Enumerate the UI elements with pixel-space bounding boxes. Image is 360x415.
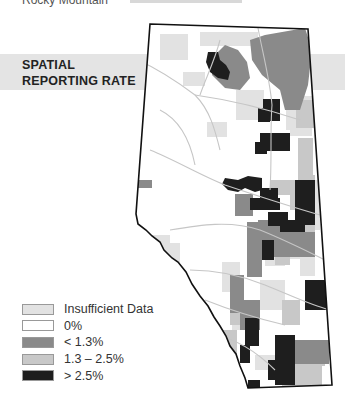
swatch-insufficient (22, 304, 54, 315)
legend-item-insufficient: Insufficient Data (22, 302, 153, 316)
legend-item-mid: 1.3 – 2.5% (22, 352, 153, 366)
swatch-mid (22, 354, 54, 365)
legend-item-zero: 0% (22, 319, 153, 333)
swatch-high (22, 370, 54, 381)
swatch-zero (22, 320, 54, 331)
swatch-low (22, 337, 54, 348)
legend-item-low: < 1.3% (22, 335, 153, 349)
legend-item-high: > 2.5% (22, 369, 153, 383)
legend: Insufficient Data 0% < 1.3% 1.3 – 2.5% >… (22, 302, 153, 385)
